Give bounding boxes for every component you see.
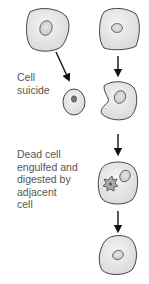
label-cell-suicide: Cell suicide [17,71,50,96]
apoptosis-diagram [0,0,149,284]
label-dead-cell-engulfed: Dead cell engulfed and digested by adjac… [17,148,78,211]
arrow-diagonal [56,52,68,78]
digesting-cell [98,162,137,204]
healthy-cell-left [26,9,68,52]
restored-cell [99,236,136,275]
healthy-cell-right [100,8,140,49]
engulfing-cell [101,82,137,120]
apoptotic-cell [63,89,85,115]
